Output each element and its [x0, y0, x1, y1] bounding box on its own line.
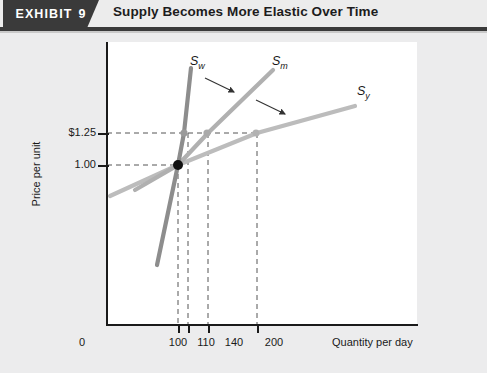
y-axis-title: Price per unit [30, 114, 42, 234]
x-tick-label-0: 0 [66, 336, 98, 348]
exhibit-badge-number: 9 [78, 7, 86, 21]
x-axis-line [106, 324, 418, 326]
x-tick-200 [257, 325, 259, 333]
curve-label-sm: Sm [272, 54, 288, 71]
exhibit-badge: EXHIBIT 9 [3, 0, 99, 27]
header-rule-shadow [0, 31, 487, 33]
exhibit-badge-word: EXHIBIT [15, 7, 72, 21]
y-tick-label-100: 1.00 [50, 158, 96, 170]
y-tick-100 [98, 165, 109, 167]
curve-label-sy: Sy [357, 84, 370, 101]
x-axis-title: Quantity per day [332, 336, 413, 348]
exhibit-figure: EXHIBIT 9 Supply Becomes More Elastic Ov… [0, 0, 487, 373]
x-tick-100 [178, 325, 180, 333]
y-tick-label-125: $1.25 [50, 126, 96, 138]
x-tick-label-200: 200 [258, 336, 290, 348]
exhibit-title: Supply Becomes More Elastic Over Time [113, 4, 378, 19]
plot-panel [107, 42, 417, 325]
y-tick-125 [98, 133, 109, 135]
curve-label-sw: Sw [190, 54, 205, 71]
x-tick-140 [208, 325, 210, 333]
x-tick-110 [188, 325, 190, 333]
y-axis-line [106, 42, 108, 326]
exhibit-header: EXHIBIT 9 Supply Becomes More Elastic Ov… [0, 0, 487, 28]
x-tick-label-140: 140 [218, 336, 250, 348]
